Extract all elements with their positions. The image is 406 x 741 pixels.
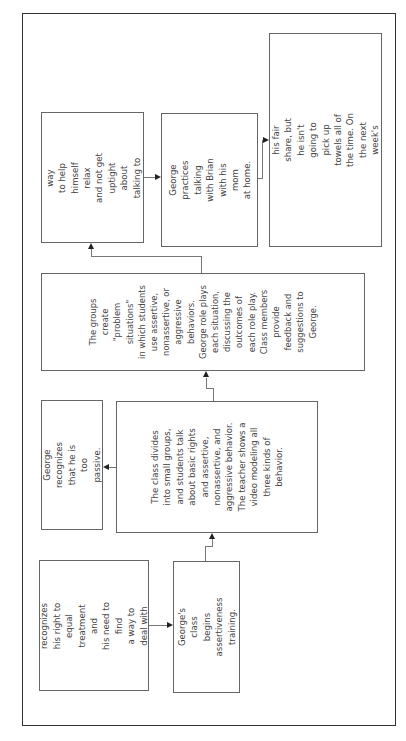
edge-line	[213, 388, 214, 401]
edge-line	[91, 256, 202, 257]
edge-line	[149, 625, 167, 626]
arrow-head-icon	[203, 371, 209, 377]
node-text: George talks to Brian and tells him that…	[269, 112, 382, 168]
arrow-head-icon	[263, 137, 269, 143]
node-groups-create: The groups create "problem situations" i…	[41, 273, 365, 371]
node-practices: George practices talking with Brian with…	[161, 113, 258, 247]
edge-line	[262, 140, 263, 179]
edge-line	[205, 546, 206, 561]
edge-line	[91, 249, 92, 257]
node-learns-relax: George learns a way to help himself rela…	[41, 112, 144, 243]
node-talks-brian: George talks to Brian and tells him that…	[269, 33, 382, 247]
node-text: The groups create "problem situations" i…	[87, 285, 319, 359]
node-text: George recognizes his right to equal tre…	[39, 599, 149, 653]
edge-line	[144, 177, 155, 178]
edge-line	[201, 256, 202, 273]
node-text: George's class begins assertiveness trai…	[175, 598, 237, 657]
node-text: George learns a way to help himself rela…	[41, 152, 144, 203]
node-recognizes-rights: George recognizes his right to equal tre…	[39, 560, 149, 691]
edge-line	[109, 467, 116, 468]
edge-line	[206, 388, 214, 389]
edge-line	[212, 539, 213, 547]
node-class-divides: The class divides into small groups, and…	[116, 401, 318, 533]
node-text: George recognizes that he is too passive…	[41, 442, 103, 488]
arrow-head-icon	[103, 464, 109, 470]
arrow-head-icon	[155, 174, 161, 180]
arrow-head-icon	[167, 622, 173, 628]
node-too-passive: George recognizes that he is too passive…	[41, 400, 103, 530]
arrow-head-icon	[88, 243, 94, 249]
node-class-begins: George's class begins assertiveness trai…	[173, 561, 240, 693]
edge-line	[206, 378, 207, 389]
node-text: The class divides into small groups, and…	[149, 422, 285, 511]
arrow-head-icon	[209, 533, 215, 539]
node-text: George practices talking with Brian with…	[166, 156, 253, 204]
